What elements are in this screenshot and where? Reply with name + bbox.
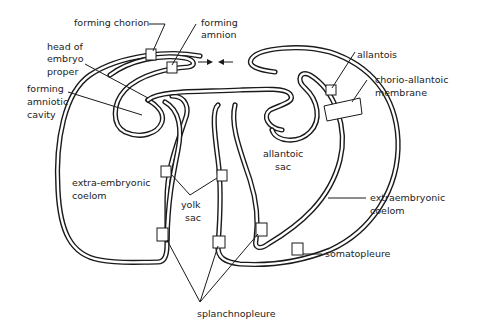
label-chorio-allantoic-1: chorio-allantoic [375, 74, 448, 85]
label-amniotic-cavity-3: cavity [27, 109, 56, 120]
label-yolk-sac-2: sac [185, 212, 201, 223]
label-head-2: embryo [47, 53, 84, 64]
marker-splanch-mid [213, 236, 225, 248]
label-allantois: allantois [357, 49, 397, 60]
closing-arrows [198, 59, 233, 65]
marker-amnion [167, 62, 177, 73]
embryo-membranes-diagram: forming chorion forming amnion head of e… [0, 0, 477, 336]
marker-splanch-left [157, 228, 168, 241]
label-allantoic-sac-2: sac [275, 161, 291, 172]
label-forming-amnion-2: amnion [201, 29, 237, 40]
marker-yolk-left [161, 166, 171, 177]
label-head-3: proper [47, 66, 78, 77]
label-extraembryonic-coelom-2: coelom [370, 205, 405, 216]
labels: forming chorion forming amnion head of e… [27, 17, 448, 319]
label-forming-amnion-1: forming [201, 17, 238, 28]
label-extraembryonic-coelom-1: extraembryonic [370, 192, 445, 203]
label-amniotic-cavity-2: amniotic [27, 96, 68, 107]
marker-allantois [326, 85, 336, 95]
embryo-body [148, 89, 291, 130]
label-yolk-sac-1: yolk [181, 199, 201, 210]
marker-chorio-allantoic [324, 98, 362, 121]
marker-chorion [146, 49, 156, 60]
label-forming-chorion: forming chorion [74, 17, 149, 28]
label-chorio-allantoic-2: membrane [375, 87, 427, 98]
marker-yolk-right [217, 170, 227, 181]
label-extra-embryonic-coelom-2: coelom [72, 190, 107, 201]
label-head-1: head of [47, 41, 84, 52]
label-amniotic-cavity-1: forming [27, 83, 64, 94]
label-extra-embryonic-coelom-1: extra-embryonic [72, 177, 151, 188]
label-allantoic-sac-1: allantoic [263, 148, 303, 159]
label-somatopleure: somatopleure [325, 248, 391, 259]
label-splanchnopleure: splanchnopleure [197, 308, 276, 319]
marker-somatopleure [292, 243, 303, 255]
